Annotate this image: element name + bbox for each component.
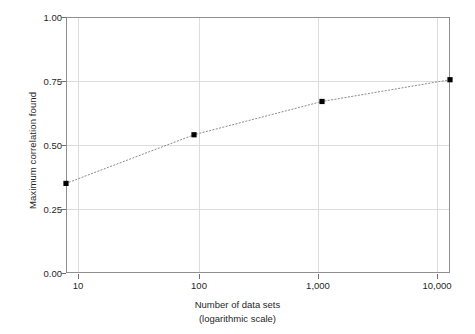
data-point-marker: [319, 99, 324, 104]
data-point-marker: [447, 77, 452, 82]
chart-figure: Maximum correlation found 0.00 0.25 0.50…: [0, 0, 475, 334]
data-point-marker: [63, 181, 68, 186]
data-series-layer: [0, 0, 475, 334]
series-line-maximum-correlation: [66, 80, 450, 184]
data-point-marker: [191, 132, 196, 137]
series-markers: [63, 77, 452, 186]
